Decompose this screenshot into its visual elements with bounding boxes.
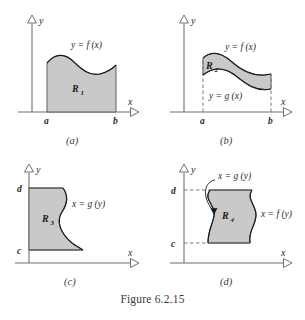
tick-label-b-lower: b (113, 116, 118, 126)
svg-text:2: 2 (214, 66, 219, 74)
tick-label-c-d: c (171, 239, 176, 249)
y-axis-label-c: y (35, 164, 41, 175)
subcaption-a: (a) (66, 135, 79, 147)
y-axis-d (180, 164, 189, 263)
svg-text:R: R (221, 210, 229, 221)
svg-text:1: 1 (81, 89, 85, 97)
x-axis-label-b: x (280, 96, 286, 107)
x-axis-label-c: x (127, 247, 133, 258)
x-axis-b (170, 108, 292, 117)
svg-text:R: R (41, 213, 49, 224)
subcaption-d: (d) (220, 276, 233, 288)
curve-label-f-a: y = f (x) (70, 40, 102, 51)
curve-label-g-b: y = g (x) (208, 91, 242, 102)
x-axis-d (170, 259, 292, 268)
figure-caption: Figure 6.2.15 (0, 293, 305, 305)
tick-label-d-c: d (17, 184, 22, 194)
svg-text:R: R (71, 83, 79, 94)
x-axis-label-d: x (280, 247, 286, 258)
curve-label-g-c: x = g (y) (71, 199, 105, 210)
y-axis-label-b: y (190, 15, 196, 26)
region-shape-c (29, 188, 83, 250)
svg-text:3: 3 (50, 219, 55, 227)
curve-label-f-d: x = f (y) (260, 209, 292, 220)
x-axis-label-a: x (127, 96, 133, 107)
tick-label-c-c: c (17, 246, 22, 256)
tick-label-a-lower-b: a (200, 116, 205, 126)
tick-label-d-d: d (171, 186, 176, 196)
y-axis-b (180, 15, 189, 112)
panel-a: y x y = f (x) R 1 a b (a) (0, 0, 152, 152)
curve-label-f-b: y = f (x) (224, 42, 256, 53)
panel-c: y x x = g (y) R 3 d c ( (0, 155, 152, 293)
tick-label-b-lower-b: b (268, 116, 273, 126)
region-shape-b (203, 53, 271, 89)
svg-text:R: R (205, 60, 213, 71)
y-axis-label-a: y (38, 15, 44, 26)
subcaption-c: (c) (64, 276, 76, 288)
panel-b: y x y = f (x) y = g (x) R 2 (152, 0, 305, 152)
figure-container: y x y = f (x) R 1 a b (a) (0, 0, 305, 320)
y-axis-label-d: y (190, 164, 196, 175)
y-axis-a (28, 15, 37, 112)
x-axis-c (15, 259, 139, 268)
curve-label-g-d: x = g (y) (217, 171, 251, 182)
region-shape-a (47, 55, 116, 112)
tick-label-a-lower: a (44, 116, 49, 126)
svg-text:4: 4 (230, 216, 235, 224)
subcaption-b: (b) (220, 135, 233, 147)
panel-d: y x x = g (y) (152, 155, 305, 293)
